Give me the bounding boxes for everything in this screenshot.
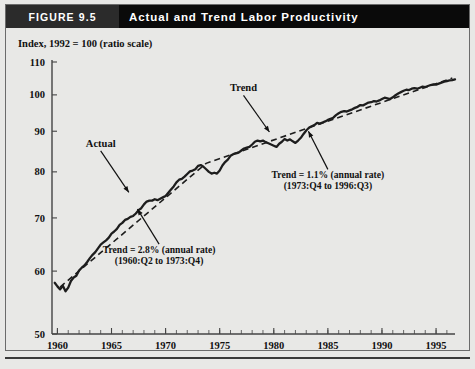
actual-label: Actual xyxy=(86,138,116,149)
trend-label-arrowhead xyxy=(264,126,269,132)
x-tick-label: 1965 xyxy=(101,340,122,351)
x-tick-label: 1995 xyxy=(426,340,447,351)
trend-label: Trend xyxy=(230,82,257,93)
actual-label-arrowhead xyxy=(123,186,128,192)
y-axis-tick-labels: 5060708090100110 xyxy=(29,57,45,340)
x-tick-label: 1980 xyxy=(263,340,284,351)
y-tick-label: 50 xyxy=(35,329,46,340)
figure-container: FIGURE 9.5 Actual and Trend Labor Produc… xyxy=(0,0,475,369)
y-axis-ticks xyxy=(52,62,57,334)
x-tick-label: 1990 xyxy=(371,340,392,351)
trend-early-note-line2: (1960:Q2 to 1973:Q4) xyxy=(115,255,203,267)
x-tick-label: 1960 xyxy=(47,340,68,351)
chart-annotations: ActualTrendTrend = 2.8% (annual rate)(19… xyxy=(86,82,384,267)
trend-late-note-leader xyxy=(308,131,327,169)
x-tick-label: 1970 xyxy=(155,340,176,351)
trend-early-note-leader xyxy=(137,209,159,244)
y-tick-label: 60 xyxy=(35,266,46,277)
line-chart: 19601965197019751980198519901995 5060708… xyxy=(0,0,475,369)
y-tick-label: 80 xyxy=(35,166,46,177)
y-tick-label: 110 xyxy=(30,57,45,68)
y-tick-label: 90 xyxy=(35,126,46,137)
x-tick-label: 1985 xyxy=(317,340,338,351)
x-axis-major-ticks xyxy=(57,328,436,334)
x-tick-label: 1975 xyxy=(209,340,230,351)
trend-late-note-line2: (1973:Q4 to 1996:Q3) xyxy=(284,180,372,192)
y-tick-label: 100 xyxy=(29,89,45,100)
actual-label-leader xyxy=(101,151,129,192)
y-tick-label: 70 xyxy=(35,213,46,224)
trend-late-note-arrowhead xyxy=(308,131,313,137)
x-axis-tick-labels: 19601965197019751980198519901995 xyxy=(47,340,447,351)
trend-label-leader xyxy=(243,95,269,132)
